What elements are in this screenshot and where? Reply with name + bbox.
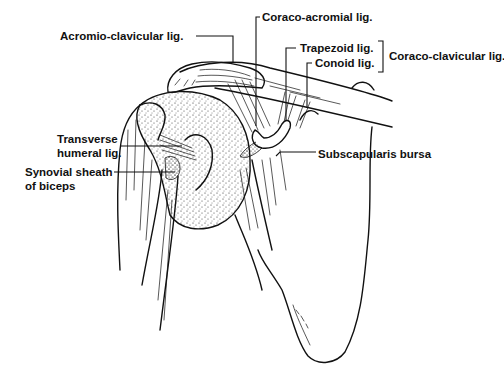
label-synovial-sheath-line1: Synovial sheath	[25, 166, 113, 178]
synovial-sheath-of-biceps	[165, 156, 180, 179]
shoulder-joint-diagram: Acromio-clavicular lig. Coraco-acromial …	[0, 0, 504, 382]
scapula	[258, 127, 372, 362]
label-subscapularis-bursa: Subscapularis bursa	[318, 148, 432, 160]
label-acromio-clavicular-lig: Acromio-clavicular lig.	[60, 30, 183, 42]
humeral-head	[137, 92, 250, 229]
label-conoid-lig: Conoid lig.	[315, 57, 374, 69]
label-transverse-humeral-lig-line2: humeral lig.	[57, 147, 122, 159]
label-synovial-sheath-line2: of biceps	[25, 180, 75, 192]
label-trapezoid-lig: Trapezoid lig.	[300, 42, 373, 54]
label-coraco-acromial-lig: Coraco-acromial lig.	[262, 11, 373, 23]
label-transverse-humeral-lig-line1: Transverse	[57, 133, 118, 145]
label-coraco-clavicular-lig: Coraco-clavicular lig.	[389, 50, 504, 62]
